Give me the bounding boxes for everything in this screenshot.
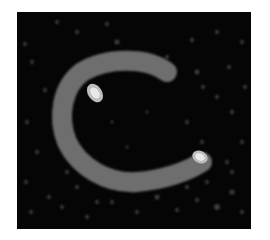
hotspot-upper-left: [84, 81, 107, 105]
c-ring: [62, 61, 202, 182]
intensity-map: [17, 12, 251, 229]
ring-plot: [17, 12, 251, 229]
